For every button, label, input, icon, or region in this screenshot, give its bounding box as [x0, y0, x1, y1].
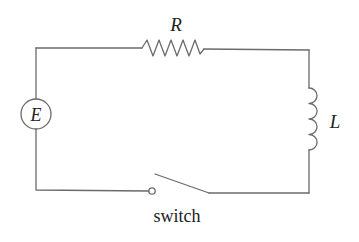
inductor-icon	[309, 88, 317, 150]
bottom-wire-left	[36, 129, 149, 191]
resistor-label: R	[169, 14, 182, 35]
resistor-icon	[142, 40, 204, 56]
switch-contact-icon	[149, 188, 155, 194]
rl-circuit-diagram: R E L switch	[0, 0, 359, 242]
circuit-svg: R E L switch	[0, 0, 359, 242]
switch-label: switch	[154, 206, 201, 226]
top-wire-right	[204, 49, 309, 50]
source-label: E	[30, 105, 42, 125]
switch-blade-icon	[155, 174, 209, 193]
inductor-label: L	[329, 111, 341, 132]
